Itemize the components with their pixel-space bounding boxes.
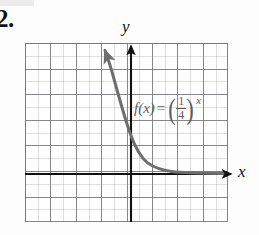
graph-figure: y x f(x) = ( 1 4 ) x — [0, 0, 259, 235]
close-paren: ) — [187, 98, 195, 120]
function-equation-label: f(x) = ( 1 4 ) x — [134, 96, 201, 121]
open-paren: ( — [169, 98, 177, 120]
equals-sign: = — [157, 100, 165, 117]
function-name: f(x) — [134, 100, 155, 117]
fraction-one-fourth: 1 4 — [176, 96, 186, 121]
x-axis-label: x — [238, 163, 246, 180]
y-axis-label: y — [122, 18, 130, 35]
exponent-x: x — [196, 94, 201, 106]
fraction-numerator: 1 — [176, 96, 186, 107]
fraction-denominator: 4 — [176, 110, 186, 121]
